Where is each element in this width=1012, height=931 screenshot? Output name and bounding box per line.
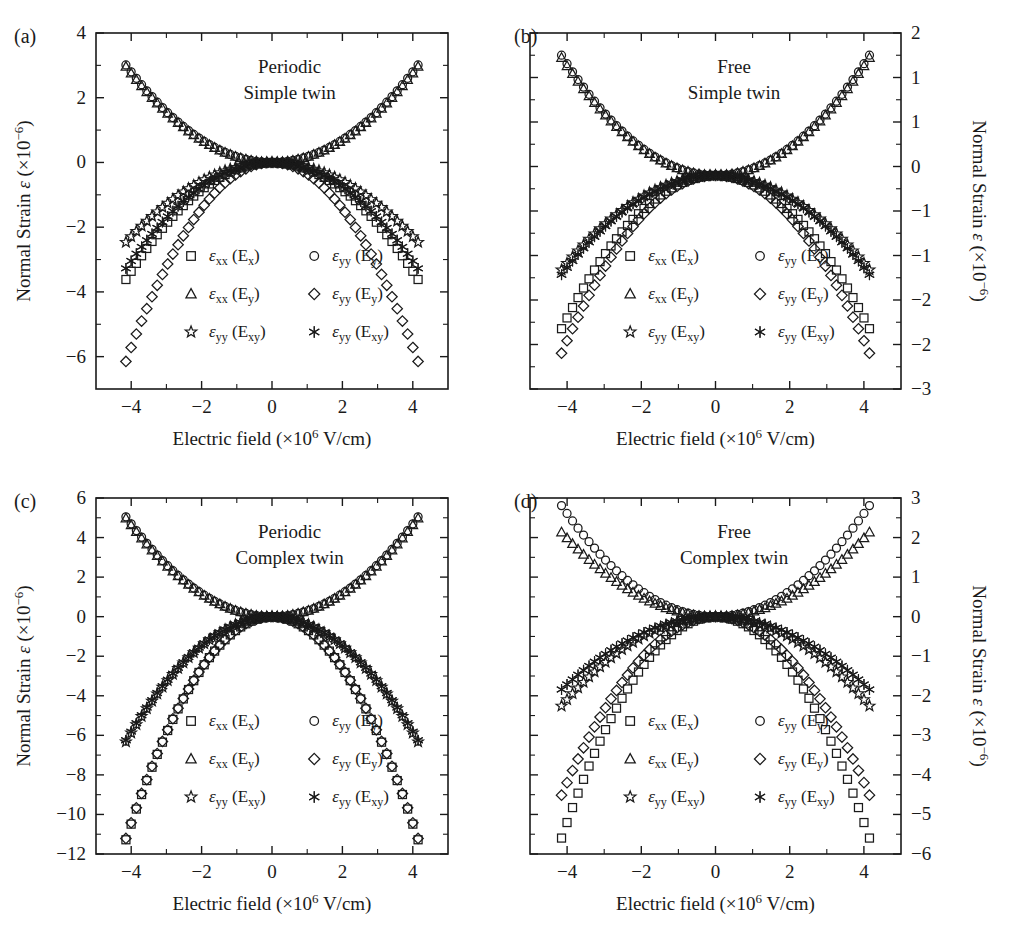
panel-d: (d)−4−20243210−1−2−3−4−5−6Electric field… (506, 466, 1012, 931)
y-axis-title: Normal Strain ε (×10−6) (11, 120, 35, 301)
data-marker (864, 348, 874, 358)
y-tick-label: 4 (77, 22, 87, 43)
data-marker (591, 749, 599, 757)
y-tick-label: 0 (77, 606, 87, 627)
legend-entry-label: εyy (Ey) (332, 749, 383, 771)
legend-entry-label: εxx (Ey) (209, 749, 260, 771)
data-marker (611, 244, 621, 254)
y-tick-label: 2 (77, 566, 87, 587)
x-tick-label: 0 (267, 396, 277, 417)
legend-entry-label: εyy (Exy) (332, 322, 389, 344)
data-marker (329, 194, 339, 204)
data-marker (864, 700, 875, 710)
data-marker (569, 804, 577, 812)
panel-b: (b)−4−20242110−1−1−2−2−3Electric field (… (506, 0, 1012, 466)
legend-marker-triangle (625, 289, 635, 298)
data-marker (799, 685, 807, 693)
data-marker (788, 668, 796, 676)
data-marker (849, 524, 857, 532)
legend-marker-asterisk (755, 791, 765, 803)
y-axis-ticks: 2110−1−1−2−2−3 (530, 22, 931, 399)
legend-entry-label: εyy (Exy) (778, 322, 835, 344)
data-marker (563, 509, 571, 517)
data-marker (853, 765, 863, 775)
data-marker (355, 186, 366, 196)
data-marker (126, 342, 136, 352)
panel-c: (c)−4−20246420−2−4−6−8−10−12Electric fie… (0, 466, 506, 931)
legend-entry-label: εyy (Ey) (332, 711, 383, 733)
data-marker (121, 263, 130, 274)
data-marker (562, 336, 572, 346)
data-marker (132, 259, 140, 267)
x-tick-label: −2 (191, 861, 211, 882)
data-marker (848, 682, 859, 692)
data-marker (162, 259, 172, 269)
data-marker (413, 237, 424, 247)
panel-annotation-line1: Periodic (258, 56, 321, 77)
data-marker (573, 682, 584, 692)
y-tick-label: −2 (66, 216, 86, 237)
data-marker (204, 194, 214, 204)
data-marker (573, 312, 583, 322)
data-marker (567, 688, 578, 698)
legend-entry-label: εyy (Exy) (778, 787, 835, 809)
data-marker (578, 743, 588, 753)
panel-annotation-line1: Free (717, 521, 751, 542)
x-axis-title: Electric field (×106 V/cm) (173, 891, 372, 915)
x-tick-label: −4 (557, 396, 578, 417)
data-marker (556, 348, 566, 358)
data-marker (324, 188, 334, 198)
data-marker (600, 703, 610, 713)
data-marker (557, 527, 567, 536)
legend: εxx (Ex)εyy (Ey)εxx (Ey)εyy (Ey)εyy (Exy… (624, 246, 834, 344)
data-marker (831, 722, 841, 732)
data-marker (382, 280, 392, 290)
data-marker (414, 836, 422, 844)
data-marker (827, 737, 835, 745)
data-marker (568, 539, 578, 548)
data-marker (859, 533, 869, 542)
data-marker (843, 775, 851, 783)
data-marker (142, 303, 152, 313)
y-tick-label: −1 (911, 200, 931, 221)
legend-entry-label: εxx (Ex) (209, 711, 260, 733)
legend-marker-star (185, 326, 196, 337)
panel-annotation-line1: Free (717, 56, 751, 77)
x-tick-label: 2 (785, 396, 795, 417)
data-marker (562, 694, 573, 704)
data-marker (413, 263, 422, 274)
data-marker (578, 301, 588, 311)
x-tick-label: −4 (121, 396, 142, 417)
data-marker (838, 762, 846, 770)
x-tick-label: 2 (785, 861, 795, 882)
data-marker (838, 538, 846, 546)
data-marker (854, 804, 862, 812)
y-tick-label: −4 (66, 281, 87, 302)
data-marker (848, 544, 858, 553)
data-marker (404, 259, 412, 267)
x-tick-label: 4 (408, 396, 418, 417)
data-marker (837, 732, 847, 742)
y-tick-label: −1 (911, 645, 931, 666)
legend-marker-triangle (186, 289, 196, 298)
data-marker (413, 356, 423, 366)
data-marker (562, 533, 572, 542)
legend-marker-triangle (625, 754, 635, 763)
series-star (556, 611, 875, 710)
legend-entry-label: εxx (Ex) (648, 246, 699, 268)
y-tick-label: −5 (911, 803, 931, 824)
legend-marker-diamond (309, 753, 320, 764)
data-marker (387, 292, 397, 302)
panel-annotation-line2: Complex twin (235, 547, 344, 568)
data-marker (843, 284, 851, 292)
y-tick-label: 1 (911, 67, 921, 88)
y-tick-label: −8 (66, 764, 86, 785)
data-marker (854, 517, 862, 525)
data-marker (392, 303, 402, 313)
y-axis-title: Normal Strain ε (×10−6) (968, 120, 992, 301)
x-tick-label: −2 (191, 396, 211, 417)
data-marker (860, 819, 868, 827)
y-tick-label: −4 (66, 685, 87, 706)
legend-entry-label: εyy (Ey) (778, 284, 829, 306)
panel-a: (a)−4−2024420−2−4−6Electric field (×106 … (0, 0, 506, 466)
